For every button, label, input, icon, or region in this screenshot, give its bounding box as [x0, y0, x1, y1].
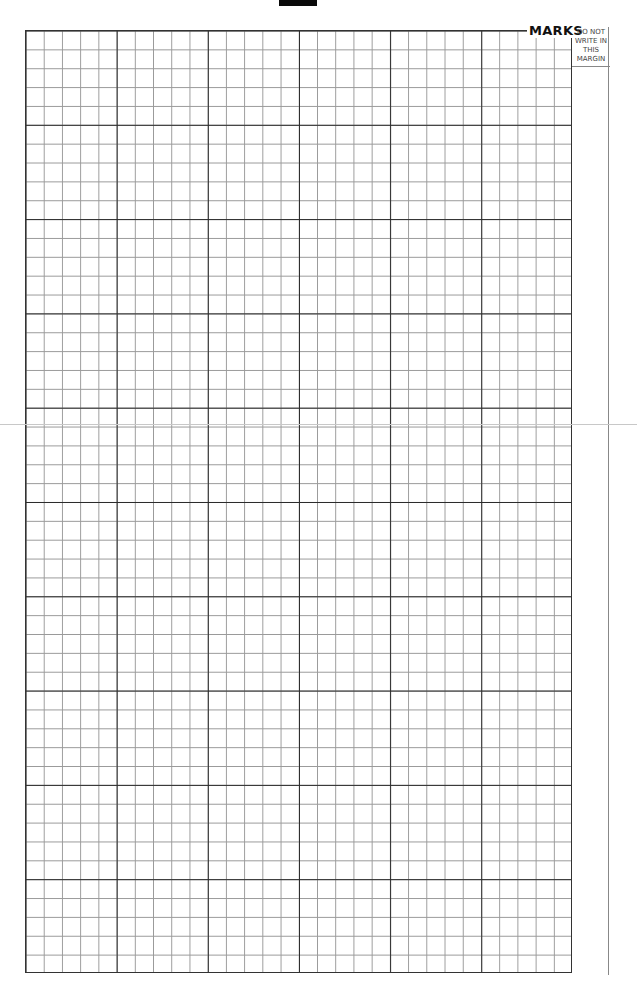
scan-seam-line: [0, 424, 637, 425]
margin-divider: [572, 66, 610, 67]
margin-column: [572, 27, 609, 975]
graph-paper-grid[interactable]: [25, 30, 572, 973]
top-tab-marker: [279, 0, 317, 6]
margin-warning-text: DO NOT WRITE IN THIS MARGIN: [572, 28, 610, 64]
